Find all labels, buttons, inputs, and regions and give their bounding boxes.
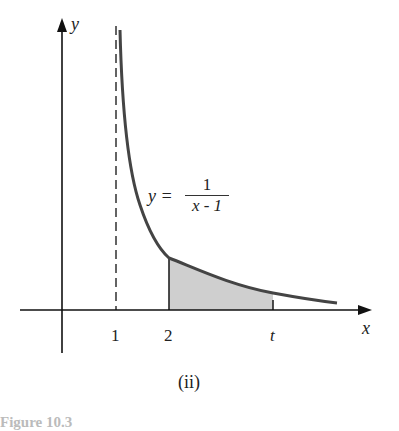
- x-axis-label: x: [362, 318, 370, 339]
- y-axis-label: y: [71, 14, 79, 35]
- equation-numerator: 1: [203, 176, 212, 194]
- function-curve: [120, 30, 337, 303]
- tick-label-2: 2: [164, 326, 173, 346]
- x-axis-arrow-icon: [358, 305, 372, 315]
- equation-fraction: 1 x - 1: [185, 176, 229, 215]
- figure-caption: (ii): [178, 372, 200, 393]
- equation-denominator: x - 1: [192, 197, 222, 215]
- tick-label-1: 1: [111, 326, 120, 346]
- figure-label-cutoff: Figure 10.3: [0, 414, 72, 431]
- y-axis-arrow-icon: [57, 18, 67, 32]
- equation-lhs: y =: [148, 186, 173, 207]
- tick-label-t: t: [270, 326, 275, 346]
